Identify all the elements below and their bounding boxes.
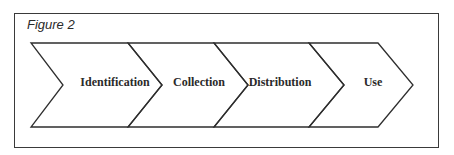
chevron-use — [309, 43, 413, 127]
stage-label-distribution: Distribution — [249, 75, 312, 90]
stage-label-collection: Collection — [173, 75, 225, 90]
process-chevrons — [0, 0, 454, 155]
stage-label-identification: Identification — [80, 75, 149, 90]
stage-label-use: Use — [364, 75, 383, 90]
